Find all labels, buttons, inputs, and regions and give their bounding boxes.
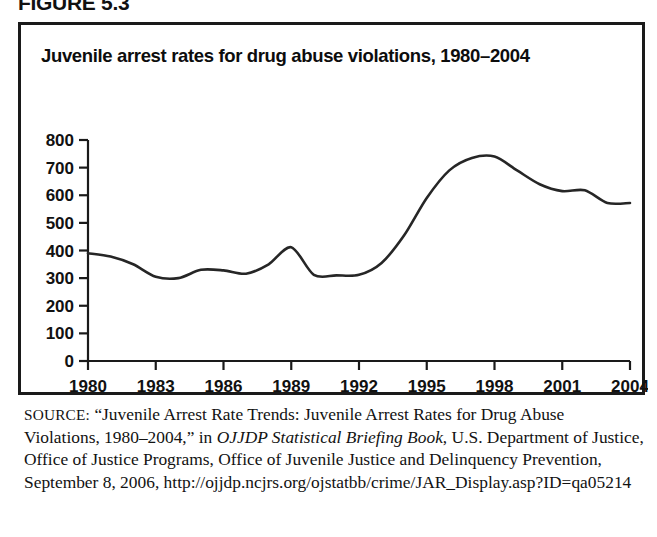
source-note: SOURCE: “Juvenile Arrest Rate Trends: Ju… [24, 403, 644, 494]
x-tick-label: 1995 [408, 377, 446, 396]
y-tick-label: 500 [46, 214, 74, 233]
y-tick-label: 100 [46, 324, 74, 343]
x-tick-label: 1989 [272, 377, 310, 396]
y-tick-label: 700 [46, 159, 74, 178]
line-chart: 8007006005004003002001000 19801983198619… [21, 25, 648, 398]
x-tick-label: 1980 [69, 377, 107, 396]
y-tick-label: 400 [46, 242, 74, 261]
data-series-line [88, 156, 630, 279]
x-tick-label: 1998 [476, 377, 514, 396]
y-tick-label: 600 [46, 186, 74, 205]
source-keyword: SOURCE: [24, 406, 90, 423]
figure-box: Juvenile arrest rates for drug abuse vio… [18, 22, 645, 395]
y-tick-label: 300 [46, 269, 74, 288]
source-url: http://ojjdp.ncjrs.org/ojstatbb/crime/JA… [164, 472, 632, 492]
x-tick-label: 1992 [340, 377, 378, 396]
y-tick-label: 200 [46, 297, 74, 316]
x-axis: 198019831986198919921995199820012004 [69, 361, 648, 396]
x-tick-label: 2004 [611, 377, 648, 396]
source-line-1: “Juvenile Arrest Rate Trends: Juvenile A… [94, 404, 516, 424]
axis-frame [88, 140, 630, 361]
y-tick-label: 0 [65, 352, 74, 371]
x-tick-label: 1983 [137, 377, 175, 396]
y-axis: 8007006005004003002001000 [46, 131, 88, 371]
source-publication-title: OJJDP Statistical Briefing Book [217, 427, 443, 447]
figure-label: FIGURE 5.3 [18, 0, 129, 15]
chart-plot-area: 8007006005004003002001000 19801983198619… [21, 25, 648, 398]
x-tick-label: 1986 [205, 377, 243, 396]
source-line-2b: , [443, 427, 447, 447]
x-tick-label: 2001 [543, 377, 581, 396]
y-tick-label: 800 [46, 131, 74, 150]
